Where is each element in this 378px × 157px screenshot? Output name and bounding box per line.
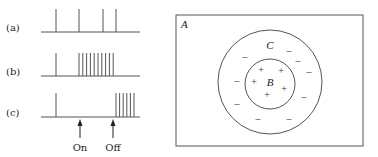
stimulus-marker-off: Off xyxy=(105,119,121,153)
spike-train-row: (c) xyxy=(6,93,140,118)
region-label-b: B xyxy=(267,76,274,88)
plus-sign-icon: + xyxy=(278,65,284,76)
spike-train-panel: (a)(b)(c)OnOff xyxy=(6,9,140,153)
marker-label: On xyxy=(73,142,88,153)
marker-label: Off xyxy=(105,142,121,153)
row-label: (a) xyxy=(6,22,20,33)
arrow-up-icon xyxy=(78,119,83,126)
minus-sign-icon: – xyxy=(255,113,262,124)
plus-sign-icon: + xyxy=(281,83,287,94)
minus-sign-icon: – xyxy=(234,75,241,86)
spike-train-row: (b) xyxy=(6,53,140,77)
minus-sign-icon: – xyxy=(306,66,313,77)
arrow-up-icon xyxy=(111,119,116,126)
minus-sign-icon: – xyxy=(286,45,293,56)
minus-sign-icon: – xyxy=(234,98,241,109)
minus-sign-icon: – xyxy=(286,113,293,124)
receptive-field-diagram: ACB–––––––––+++++ xyxy=(176,15,363,146)
minus-sign-icon: – xyxy=(242,51,249,62)
plus-sign-icon: + xyxy=(258,64,264,75)
row-label: (c) xyxy=(6,107,20,118)
region-label-a: A xyxy=(180,18,188,30)
minus-sign-icon: – xyxy=(301,91,308,102)
stimulus-marker-on: On xyxy=(73,119,88,153)
plus-sign-icon: + xyxy=(251,76,257,87)
minus-sign-icon: – xyxy=(295,55,302,66)
figure-canvas: (a)(b)(c)OnOff ACB–––––––––+++++ xyxy=(0,0,378,157)
region-label-c: C xyxy=(266,39,274,51)
plus-sign-icon: + xyxy=(264,89,270,100)
spike-train-row: (a) xyxy=(6,9,140,33)
row-label: (b) xyxy=(6,66,20,77)
